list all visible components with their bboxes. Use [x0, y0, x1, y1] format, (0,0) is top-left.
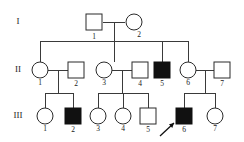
id-label-III-5: 5 [146, 125, 150, 134]
generation-label-II: II [15, 64, 21, 74]
symbol-III-5-male[interactable] [140, 108, 156, 124]
symbol-II-3-female[interactable] [96, 62, 112, 78]
symbol-II-2-male[interactable] [68, 62, 84, 78]
id-label-II-7: 7 [220, 79, 224, 88]
proband-arrow-layer [160, 123, 174, 136]
id-label-III-4: 4 [121, 124, 125, 133]
id-label-III-2: 2 [71, 125, 75, 134]
id-label-III-3: 3 [96, 124, 100, 133]
id-label-III-7: 7 [213, 124, 217, 133]
id-label-III-6: 6 [182, 125, 186, 134]
symbol-II-7-male[interactable] [214, 62, 230, 78]
symbol-III-4-female[interactable] [115, 108, 131, 124]
generation-label-I: I [17, 16, 20, 26]
individual-symbols-layer [32, 14, 230, 124]
symbol-II-4-male[interactable] [132, 62, 148, 78]
symbol-III-6-affected-male[interactable] [176, 108, 192, 124]
id-label-I-1: 1 [92, 32, 96, 41]
symbol-II-5-affected-male[interactable] [154, 62, 170, 78]
symbol-II-1-female[interactable] [32, 62, 48, 78]
symbol-I-2-female[interactable] [126, 14, 142, 30]
symbol-III-2-affected-male[interactable] [65, 108, 81, 124]
symbol-III-7-female[interactable] [207, 108, 223, 124]
id-label-II-5: 5 [160, 79, 164, 88]
id-label-II-3: 3 [102, 78, 106, 87]
id-label-II-1: 1 [38, 78, 42, 87]
pedigree-canvas: I12II1234567III1234567 [0, 0, 244, 142]
symbol-I-1-male[interactable] [86, 14, 102, 30]
id-label-II-4: 4 [138, 79, 142, 88]
id-label-II-6: 6 [186, 78, 190, 87]
id-label-III-1: 1 [43, 124, 47, 133]
id-label-II-2: 2 [74, 79, 78, 88]
id-label-I-2: 2 [137, 30, 141, 39]
symbol-III-1-female[interactable] [37, 108, 53, 124]
symbol-III-3-female[interactable] [90, 108, 106, 124]
generation-label-III: III [14, 110, 23, 120]
pedigree-chart: I12II1234567III1234567 [0, 0, 244, 142]
symbol-II-6-female[interactable] [180, 62, 196, 78]
